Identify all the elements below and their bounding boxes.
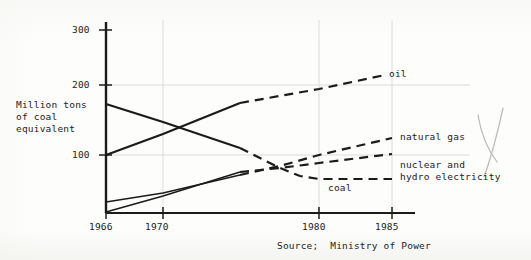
x-tick-label-1980: 1980	[302, 221, 326, 233]
x-tick-label-1966: 1966	[89, 221, 113, 233]
x-tick-label-1970: 1970	[145, 221, 169, 233]
series-label-oil: oil	[389, 68, 407, 80]
series-label-natural-gas: natural gas	[400, 131, 465, 143]
series-line-oil-dashed	[240, 75, 385, 103]
y-tick-label-100: 100	[72, 149, 90, 161]
source-note: Source; Ministry of Power	[277, 240, 431, 252]
series-label-coal: coal	[328, 182, 352, 194]
x-tick-label-1985: 1985	[375, 221, 399, 233]
grid-lines	[106, 20, 470, 213]
chart-page: Million tons of coal equivalent 300 200 …	[0, 0, 531, 260]
y-tick-label-200: 200	[72, 79, 90, 91]
series-label-nuclear-hydro: nuclear and hydro electricity	[400, 159, 501, 183]
series-line-nuclear-hydro-solid	[106, 172, 240, 212]
y-tick-label-300: 300	[72, 24, 90, 36]
y-axis-title: Million tons of coal equivalent	[16, 99, 87, 135]
